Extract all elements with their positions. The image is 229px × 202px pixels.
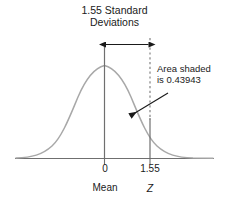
axis-tick-label-zero: 0 xyxy=(96,163,114,175)
figure-canvas xyxy=(0,0,229,202)
figure-title-line1: 1.55 Standard xyxy=(82,4,148,16)
area-annotation: Area shaded is 0.43943 xyxy=(157,64,211,86)
area-annotation-line1: Area shaded xyxy=(157,63,211,74)
normal-distribution-figure: 1.55 Standard Deviations Area shaded is … xyxy=(0,0,229,202)
figure-title-line2: Deviations xyxy=(0,16,229,28)
axis-tick-label-z: 1.55 xyxy=(136,163,164,175)
axis-caption-z: Z xyxy=(136,182,164,194)
axis-caption-mean: Mean xyxy=(86,182,124,194)
figure-title: 1.55 Standard Deviations xyxy=(0,4,229,28)
area-annotation-line2: is 0.43943 xyxy=(157,75,211,86)
area-pointer-arrow xyxy=(130,93,168,116)
